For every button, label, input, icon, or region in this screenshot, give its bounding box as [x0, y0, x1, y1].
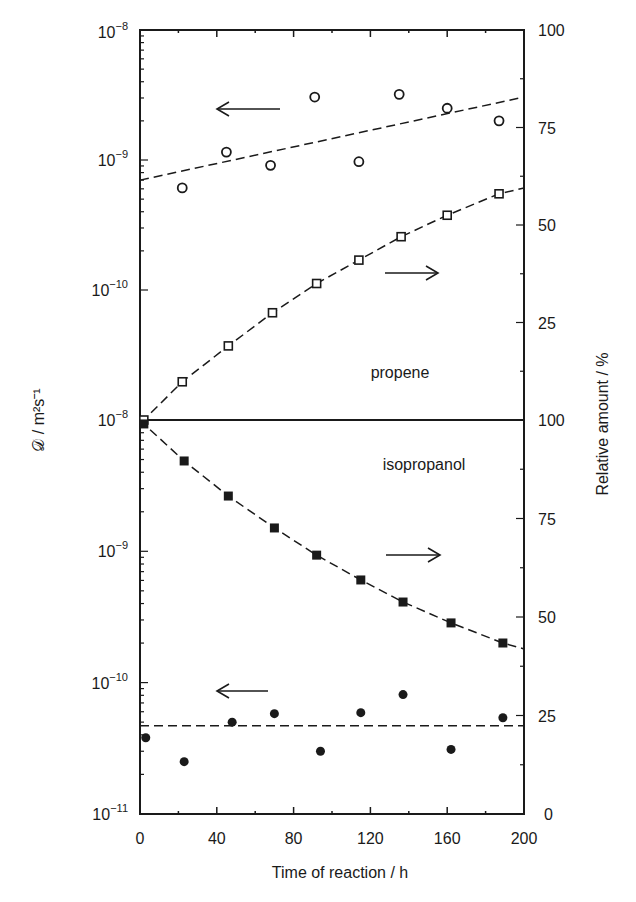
filled-square-marker — [270, 523, 279, 532]
filled-square-marker — [312, 551, 321, 560]
filled-square-marker — [139, 419, 148, 428]
fit-propene-diffusivity — [140, 97, 524, 180]
axis-arrows — [217, 102, 440, 698]
x-tick-label: 200 — [511, 830, 538, 847]
y-left-label: 10−10 — [92, 671, 128, 692]
x-tick-label: 160 — [434, 830, 461, 847]
filled-square-marker — [447, 618, 456, 627]
y-right-label: 25 — [538, 708, 556, 725]
right-axis-title: Relative amount / % — [594, 352, 611, 495]
filled-square-marker — [399, 598, 408, 607]
fit-isopropanol-amount — [140, 420, 524, 649]
open-circle-marker — [443, 104, 452, 113]
tick-labels: 0408012016020010−810−910−1010−810−910−10… — [92, 20, 565, 847]
y-left-label: 10−10 — [92, 278, 128, 299]
left-arrow-icon — [217, 684, 268, 698]
y-right-label: 25 — [538, 315, 556, 332]
y-right-label: 0 — [544, 806, 553, 823]
frame-rect — [140, 30, 524, 814]
fit-propene-amount — [140, 188, 524, 420]
filled-circle-marker — [447, 745, 456, 754]
filled-circle-marker — [228, 718, 237, 727]
open-circle-marker — [178, 183, 187, 192]
y-right-label: 75 — [538, 511, 556, 528]
y-left-label: 10−8 — [98, 408, 128, 429]
y-left-label: 10−11 — [92, 802, 128, 823]
open-square-marker — [313, 280, 321, 288]
right-arrow-icon — [386, 548, 440, 562]
chart: 0408012016020010−810−910−1010−810−910−10… — [0, 0, 636, 902]
filled-circle-marker — [270, 709, 279, 718]
open-square-marker — [178, 378, 186, 386]
open-circle-marker — [395, 90, 404, 99]
filled-circle-marker — [180, 757, 189, 766]
right-arrow-icon — [385, 266, 438, 280]
x-axis-title: Time of reaction / h — [272, 864, 408, 881]
filled-square-marker — [356, 575, 365, 584]
open-circle-marker — [222, 148, 231, 157]
data-markers — [139, 90, 507, 766]
open-square-marker — [355, 256, 363, 264]
y-left-label: 10−8 — [98, 20, 128, 41]
y-left-label: 10−9 — [98, 148, 128, 169]
y-left-label: 10−9 — [98, 539, 128, 560]
left-axis-title: 𝒟 / m²s⁻¹ — [30, 388, 47, 451]
filled-square-marker — [224, 492, 233, 501]
filled-circle-marker — [141, 733, 150, 742]
x-tick-label: 0 — [136, 830, 145, 847]
open-square-marker — [443, 211, 451, 219]
y-right-label: 75 — [538, 120, 556, 137]
y-right-label: 100 — [538, 22, 565, 39]
y-right-label: 50 — [538, 609, 556, 626]
filled-circle-marker — [356, 708, 365, 717]
label-propene: propene — [371, 364, 430, 381]
y-right-label: 50 — [538, 217, 556, 234]
filled-square-marker — [180, 456, 189, 465]
open-circle-marker — [354, 157, 363, 166]
x-tick-label: 80 — [285, 830, 303, 847]
open-square-marker — [397, 233, 405, 241]
x-tick-label: 120 — [357, 830, 384, 847]
filled-circle-marker — [399, 690, 408, 699]
filled-circle-marker — [498, 713, 507, 722]
open-square-marker — [268, 309, 276, 317]
filled-circle-marker — [316, 747, 325, 756]
y-right-label: 100 — [538, 412, 565, 429]
fit-lines — [140, 97, 524, 726]
filled-square-marker — [498, 639, 507, 648]
axis-ticks — [140, 30, 524, 814]
open-square-marker — [224, 342, 232, 350]
open-circle-marker — [495, 116, 504, 125]
label-isopropanol: isopropanol — [383, 456, 466, 473]
plot-frame — [140, 30, 524, 814]
open-circle-marker — [310, 93, 319, 102]
open-circle-marker — [266, 161, 275, 170]
open-square-marker — [495, 190, 503, 198]
x-tick-label: 40 — [208, 830, 226, 847]
left-arrow-icon — [217, 102, 280, 116]
